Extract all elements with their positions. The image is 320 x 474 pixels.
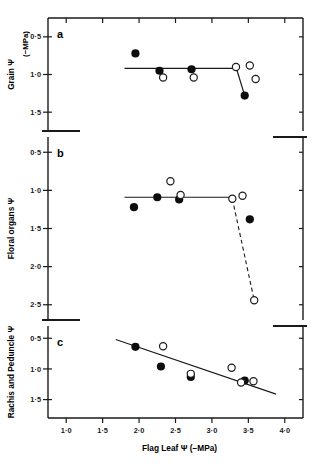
x-tick-label-0: 1·0 bbox=[61, 426, 72, 435]
x-tick-label-2: 2·0 bbox=[134, 426, 145, 435]
y-tick-label-p1-2: 1·5 bbox=[30, 224, 41, 233]
data-point-a-open-circles-2 bbox=[232, 63, 239, 70]
y-axis-unit-label: (−MPa) bbox=[21, 31, 30, 57]
x-tick-label-5: 3·5 bbox=[243, 426, 254, 435]
y-tick-label-p2-0: 0·5 bbox=[30, 334, 41, 343]
data-point-a-closed-circles-0 bbox=[131, 49, 139, 57]
trend-line-a-1 bbox=[236, 67, 245, 96]
x-tick-label-4: 3·0 bbox=[207, 426, 218, 435]
data-point-c-closed-circles-0 bbox=[131, 343, 139, 351]
data-point-b-open-circles-4 bbox=[251, 297, 258, 304]
y-axis-title-panel-b: Floral organs Ψ bbox=[6, 197, 16, 259]
panel-letter-c: c bbox=[57, 336, 63, 348]
data-point-c-open-circles-3 bbox=[237, 379, 244, 386]
y-tick-label-p2-1: 1·0 bbox=[30, 365, 41, 374]
data-point-a-open-circles-1 bbox=[190, 74, 197, 81]
x-tick-label-3: 2·5 bbox=[170, 426, 181, 435]
x-tick-label-1: 1·5 bbox=[97, 426, 108, 435]
y-tick-label-p1-3: 2·0 bbox=[30, 262, 41, 271]
x-tick-label-6: 4·0 bbox=[279, 426, 290, 435]
data-point-b-closed-circles-0 bbox=[130, 203, 138, 211]
data-point-a-closed-circles-3 bbox=[241, 91, 249, 99]
data-point-b-open-circles-1 bbox=[177, 191, 184, 198]
figure-container: 1·01·52·02·53·03·54·0Flag Leaf Ψ (−MPa)(… bbox=[0, 0, 320, 474]
data-point-c-open-circles-2 bbox=[228, 364, 235, 371]
data-point-c-closed-circles-1 bbox=[157, 362, 165, 370]
y-tick-label-p0-2: 1·5 bbox=[30, 108, 41, 117]
panel-letter-b: b bbox=[57, 147, 64, 159]
panel-letter-a: a bbox=[57, 28, 64, 40]
trend-line-c-0 bbox=[116, 339, 276, 394]
data-point-b-open-circles-2 bbox=[229, 195, 236, 202]
x-axis-title: Flag Leaf Ψ (−MPa) bbox=[142, 443, 217, 453]
y-tick-label-p1-4: 2·5 bbox=[30, 300, 41, 309]
y-axis-title-panel-c: Rachis and Peduncle Ψ bbox=[6, 325, 16, 418]
data-point-b-open-circles-3 bbox=[239, 192, 246, 199]
data-point-b-closed-circles-1 bbox=[153, 193, 161, 201]
y-tick-label-p1-0: 0·5 bbox=[30, 148, 41, 157]
data-point-a-open-circles-4 bbox=[252, 75, 259, 82]
data-point-b-closed-circles-3 bbox=[246, 215, 254, 223]
multi-panel-scatter-plot: 1·01·52·02·53·03·54·0Flag Leaf Ψ (−MPa)(… bbox=[0, 0, 320, 474]
y-tick-label-p2-2: 1·5 bbox=[30, 395, 41, 404]
y-tick-label-p1-1: 1·0 bbox=[30, 186, 41, 195]
data-point-c-open-circles-4 bbox=[250, 378, 257, 385]
data-point-b-open-circles-0 bbox=[167, 178, 174, 185]
data-point-c-open-circles-0 bbox=[160, 343, 167, 350]
y-tick-label-p0-0: 0·5 bbox=[30, 32, 41, 41]
data-point-a-open-circles-3 bbox=[246, 62, 253, 69]
data-point-a-closed-circles-2 bbox=[187, 65, 195, 73]
data-point-c-open-circles-1 bbox=[187, 370, 194, 377]
y-tick-label-p0-1: 1·0 bbox=[30, 70, 41, 79]
data-point-a-open-circles-0 bbox=[160, 74, 167, 81]
y-axis-title-panel-a: Grain Ψ bbox=[6, 59, 16, 90]
trend-line-b-1 bbox=[232, 199, 254, 300]
